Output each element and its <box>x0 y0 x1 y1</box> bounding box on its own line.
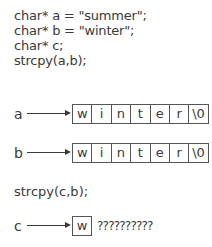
code-block: char* a = "summer"; char* b = "winter"; … <box>14 8 147 68</box>
arrow-right-icon <box>27 225 67 226</box>
char-cell: r <box>170 105 189 123</box>
char-cell: r <box>170 144 189 162</box>
char-cell: i <box>92 105 111 123</box>
char-cell: e <box>151 105 170 123</box>
char-cell: w <box>72 216 92 236</box>
char-cell: t <box>131 144 150 162</box>
char-cell: e <box>151 144 170 162</box>
code-line: strcpy(c,b); <box>14 184 88 199</box>
code-line: char* a = "summer"; <box>14 8 147 23</box>
code-line: strcpy(a,b); <box>14 53 147 68</box>
pointer-label: b <box>14 143 23 163</box>
arrow-right-icon <box>27 152 67 153</box>
char-cell: \0 <box>189 105 207 123</box>
code-line: char* c; <box>14 38 147 53</box>
garbage-text: ?????????? <box>97 216 153 236</box>
pointer-label: a <box>14 104 23 124</box>
char-cell: w <box>73 144 92 162</box>
char-array: w i n t e r \0 <box>72 104 209 124</box>
char-cell: t <box>131 105 150 123</box>
char-cell: i <box>92 144 111 162</box>
char-cell: n <box>112 144 131 162</box>
char-cell: \0 <box>189 144 207 162</box>
char-cell: w <box>73 105 92 123</box>
char-array: w i n t e r \0 <box>72 143 209 163</box>
arrow-right-icon <box>27 113 67 114</box>
code-line: char* b = "winter"; <box>14 23 147 38</box>
pointer-label: c <box>14 216 22 236</box>
char-cell: n <box>112 105 131 123</box>
